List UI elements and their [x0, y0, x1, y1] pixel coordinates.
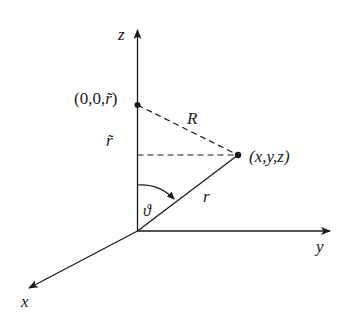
field-point-label: (x,y,z): [249, 147, 290, 166]
segment-r-label: r: [203, 187, 210, 206]
coordinate-diagram: z y x R r ϑ r̃ (0,0,r̃) (x,y,z): [0, 0, 345, 324]
r-tilde-label: r̃: [106, 131, 114, 150]
angle-label: ϑ: [143, 202, 152, 219]
z-axis-label: z: [117, 25, 125, 44]
x-axis-label: x: [20, 292, 29, 311]
angle-arc: [138, 185, 175, 199]
x-axis: [29, 231, 138, 288]
source-point: [135, 102, 141, 108]
segment-R-label: R: [186, 109, 198, 128]
segment-r: [138, 155, 239, 231]
source-point-suffix: ): [112, 89, 118, 108]
y-axis-label: y: [314, 237, 324, 256]
source-point-label: (0,0,r̃): [74, 89, 117, 108]
field-point: [235, 152, 241, 158]
source-point-prefix: (0,0,: [74, 89, 105, 108]
